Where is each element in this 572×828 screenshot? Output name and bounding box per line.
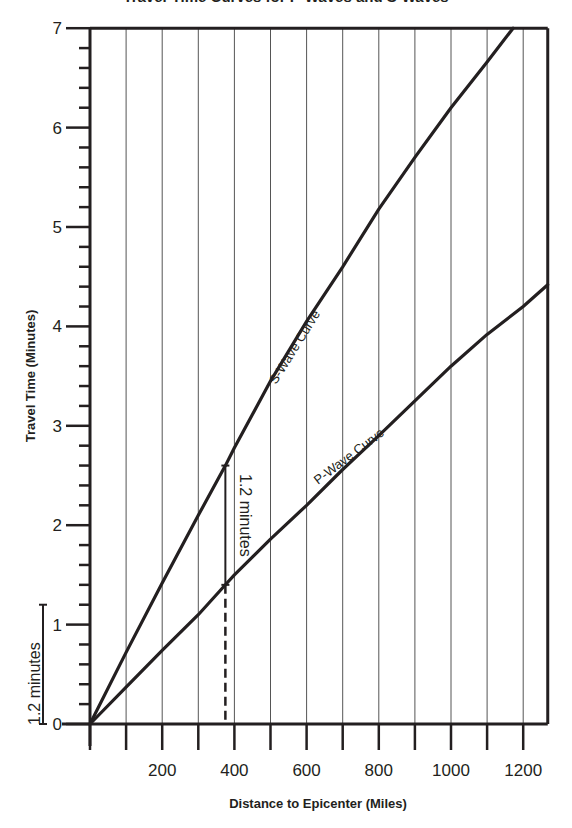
x-tick-label: 1000 [432, 761, 470, 780]
x-tick-label: 200 [148, 761, 176, 780]
x-tick-label: 800 [365, 761, 393, 780]
p-wave-curve [90, 285, 548, 724]
x-tick-label: 600 [292, 761, 320, 780]
y-tick-label: 1 [53, 616, 62, 635]
y-axis-ticks: 01234567 [53, 19, 90, 734]
y-tick-label: 7 [53, 19, 62, 38]
y-tick-label: 4 [53, 317, 62, 336]
y-tick-label: 5 [53, 218, 62, 237]
y-tick-label: 6 [53, 119, 62, 138]
curves [90, 28, 548, 724]
y-axis-title: Travel Time (Minutes) [23, 310, 38, 443]
p-wave-curve-label: P-Wave Curve [311, 425, 387, 488]
annotations [39, 466, 229, 724]
x-tick-label: 1200 [504, 761, 542, 780]
x-tick-label: 400 [220, 761, 248, 780]
s-wave-curve-label: S-Wave Curve [266, 307, 323, 386]
y-tick-label: 0 [53, 715, 62, 734]
y-tick-label: 3 [53, 417, 62, 436]
travel-time-chart: 01234567 20040060080010001200 Distance t… [0, 0, 572, 828]
s-wave-curve [90, 28, 513, 724]
bracket-label-left: 1.2 minutes [26, 642, 43, 725]
x-axis-title: Distance to Epicenter (Miles) [229, 796, 407, 811]
x-axis-ticks: 20040060080010001200 [90, 724, 542, 780]
bracket-label-mid: 1.2 minutes [237, 474, 254, 557]
y-tick-label: 2 [53, 516, 62, 535]
